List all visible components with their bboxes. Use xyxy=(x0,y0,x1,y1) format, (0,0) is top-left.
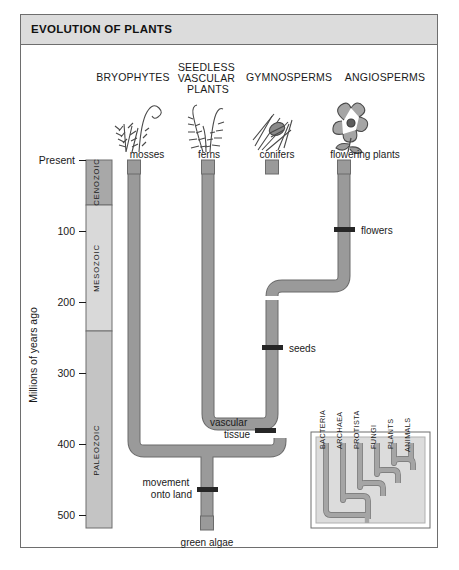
figure-frame: EVOLUTION OF PLANTS xyxy=(20,14,438,548)
figure-page: EVOLUTION OF PLANTS CENOZOIC MESOZOIC PA… xyxy=(0,0,459,570)
page-title: EVOLUTION OF PLANTS xyxy=(31,23,172,35)
figure-title-bar: EVOLUTION OF PLANTS xyxy=(21,15,437,45)
